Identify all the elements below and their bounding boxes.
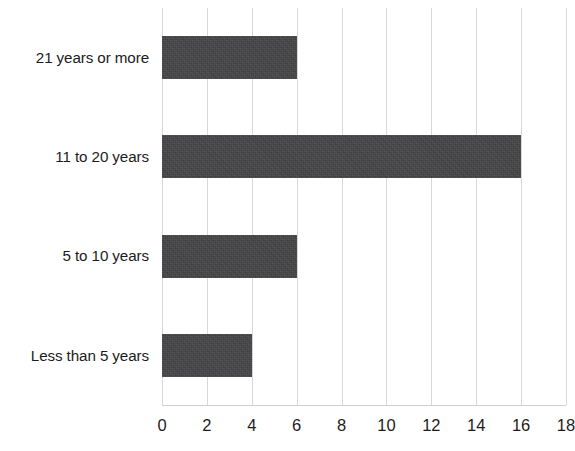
bar-less-than-5-years — [162, 334, 252, 377]
x-tick-label: 0 — [157, 410, 166, 440]
category-label-text: 21 years or more — [36, 49, 149, 66]
x-axis-line — [162, 405, 566, 406]
category-label-21-years-or-more: 21 years or more — [0, 8, 156, 107]
bar-slot — [162, 8, 566, 107]
category-axis: 21 years or more 11 to 20 years 5 to 10 … — [0, 8, 156, 405]
plot-area — [162, 8, 566, 405]
x-tick-label: 8 — [337, 410, 346, 440]
category-label-less-than-5-years: Less than 5 years — [0, 306, 156, 405]
category-label-text: 5 to 10 years — [62, 247, 149, 264]
bar-11-to-20-years — [162, 135, 521, 178]
x-tick-label: 12 — [422, 410, 440, 440]
x-tick-label: 16 — [512, 410, 530, 440]
value-axis: 024681012141618 — [162, 410, 566, 440]
gridline — [566, 8, 567, 405]
x-tick-label: 2 — [202, 410, 211, 440]
x-tick-label: 6 — [292, 410, 301, 440]
x-tick-label: 10 — [377, 410, 395, 440]
x-tick-label: 4 — [247, 410, 256, 440]
x-tick-label: 14 — [467, 410, 485, 440]
category-label-text: 11 to 20 years — [55, 148, 149, 165]
category-label-text: Less than 5 years — [31, 347, 149, 364]
bar-5-to-10-years — [162, 235, 297, 278]
bar-21-years-or-more — [162, 36, 297, 79]
bar-slot — [162, 207, 566, 306]
category-label-5-to-10-years: 5 to 10 years — [0, 207, 156, 306]
x-tick-label: 18 — [557, 410, 575, 440]
bar-slot — [162, 306, 566, 405]
bar-slot — [162, 107, 566, 206]
category-label-11-to-20-years: 11 to 20 years — [0, 107, 156, 206]
bars-layer — [162, 8, 566, 405]
